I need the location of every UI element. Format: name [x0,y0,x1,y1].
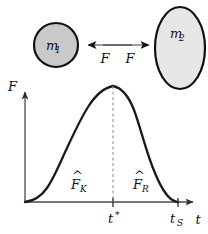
f-r-subscript: R [141,184,149,194]
t-star-tick-label: t [108,211,114,226]
mass-2-subscript: 2 [178,33,185,43]
t-star-tick-superscript: * [115,210,120,220]
force-right-label: F [124,51,135,66]
annotation-compression-group: ^ F K [70,168,88,194]
annotation-restitution-group: ^ F R [132,168,149,194]
f-k-subscript: K [79,184,88,194]
force-left-label: F [99,51,110,66]
impact-force-figure: m 1 m 2 F F F t [0,0,208,234]
t-s-tick-subscript: S [177,218,183,228]
t-s-tick-label: t [170,211,176,226]
force-right-arrow-group: F [103,45,149,66]
mass-2-ellipse [155,7,205,89]
y-axis-label: F [7,79,18,94]
x-axis-label: t [195,212,201,227]
mass-2-group: m 2 [155,7,205,89]
mass-1-group: m 1 [34,23,78,67]
plot-axes: F t [7,79,201,227]
figure-canvas: m 1 m 2 F F F t [0,0,208,234]
mass-1-subscript: 1 [55,45,61,55]
contact-force-curve [25,86,178,202]
force-curve-group [25,86,178,202]
peak-indicator-group: t * [108,86,120,226]
